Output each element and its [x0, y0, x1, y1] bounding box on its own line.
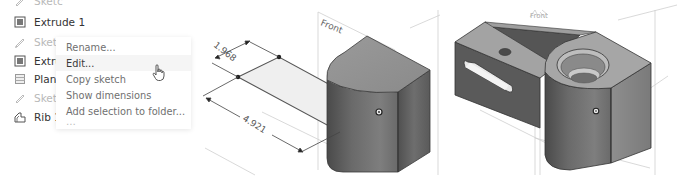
- sketch-icon: [14, 92, 26, 104]
- tree-item-sketch-2[interactable]: Sketc: [14, 33, 60, 51]
- tree-item-label: Extrude 1: [34, 16, 85, 28]
- sketch-icon: [14, 36, 26, 48]
- tree-item-extrude-1[interactable]: Extrude 1: [14, 13, 85, 31]
- extrude-icon: [14, 55, 26, 67]
- tree-item-sketch-4[interactable]: Sketc: [14, 89, 60, 107]
- menu-item-edit[interactable]: Edit...: [66, 56, 94, 71]
- context-menu: Rename... Edit... Copy sketch Show dimen…: [56, 37, 191, 129]
- 3d-viewport[interactable]: Front 1.968: [195, 0, 677, 188]
- tree-item-sketch-3[interactable]: Sketc: [14, 0, 63, 10]
- menu-item-rename[interactable]: Rename...: [66, 40, 116, 55]
- part-body-right[interactable]: [455, 22, 651, 170]
- plane-label-front: Front: [319, 18, 344, 36]
- extrude-icon: [14, 16, 26, 28]
- rib-icon: [14, 111, 26, 123]
- menu-item-copy-sketch[interactable]: Copy sketch: [66, 72, 126, 87]
- tree-item-label: Sketc: [34, 0, 63, 7]
- menu-item-add-to-folder[interactable]: Add selection to folder...: [66, 104, 185, 119]
- tree-item-extrude-2[interactable]: Extru: [14, 52, 62, 70]
- part-body-left[interactable]: [327, 36, 430, 172]
- tree-item-plane-1[interactable]: Plan: [14, 70, 60, 88]
- dimension-label-1968[interactable]: 1.968: [212, 40, 239, 64]
- tree-item-rib-1[interactable]: Rib 1: [14, 108, 61, 126]
- dimension-label-4921[interactable]: 4.921: [241, 113, 268, 135]
- plane-icon: [14, 73, 26, 85]
- plane-label-front-right: Front: [530, 12, 548, 20]
- menu-item-show-dimensions[interactable]: Show dimensions: [66, 88, 151, 103]
- menu-item-more[interactable]: …: [66, 119, 76, 127]
- sketch-icon: [14, 0, 26, 7]
- hand-pointer-icon: [152, 64, 166, 82]
